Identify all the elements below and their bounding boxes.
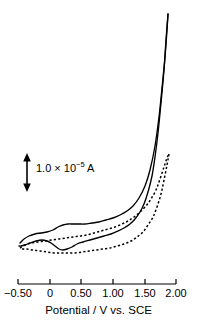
x-axis — [18, 279, 176, 284]
x-axis-tick-label: 1.00 — [102, 287, 123, 300]
x-axis-tick-label: 0 — [47, 287, 53, 300]
x-axis-tick-label: −0.50 — [4, 287, 32, 300]
x-axis-ticks — [18, 279, 176, 284]
solid-curve — [19, 14, 168, 250]
scale-bar-label: 1.0 × 10−5 A — [36, 162, 94, 175]
arrow-down-icon — [23, 184, 31, 193]
x-axis-tick-label: 1.50 — [134, 287, 155, 300]
x-axis-tick-label: 0.50 — [70, 287, 91, 300]
arrow-up-icon — [23, 153, 31, 162]
cyclic-voltammogram-figure: 1.0 × 10−5 A −0.5000.501.001.502.00 Pote… — [0, 0, 197, 326]
scale-bar-label-unit: A — [85, 162, 95, 174]
scale-bar-label-mantissa: 1.0 × 10 — [36, 162, 76, 174]
scale-bar-label-exponent: −5 — [76, 160, 85, 169]
voltammogram-plot-area — [0, 0, 197, 326]
x-axis-tick-label: 2.00 — [165, 287, 186, 300]
x-axis-title: Potential / V vs. SCE — [0, 303, 197, 317]
x-axis-tick-labels: −0.5000.501.001.502.00 — [0, 287, 197, 301]
current-scale-bar — [23, 153, 31, 192]
solid-curve-reverse-sweep — [19, 14, 168, 250]
solid-curve-forward-sweep — [20, 14, 168, 243]
